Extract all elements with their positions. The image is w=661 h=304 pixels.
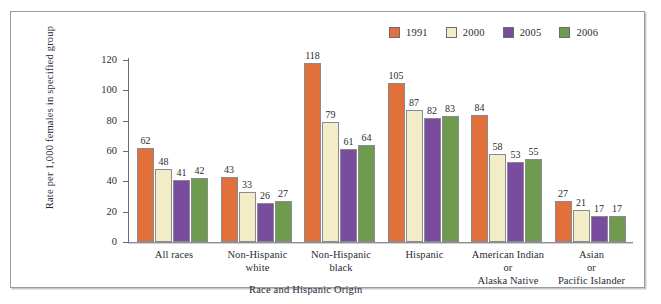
bar-2006: 42 bbox=[191, 178, 208, 242]
legend-swatch-icon bbox=[389, 27, 400, 38]
bar-2000: 87 bbox=[406, 110, 423, 242]
legend-item-2005: 2005 bbox=[503, 27, 542, 38]
x-category-label-line: Asian bbox=[533, 248, 651, 261]
legend-swatch-icon bbox=[503, 27, 514, 38]
bar-2006: 27 bbox=[275, 201, 292, 242]
chart-legend: 1991200020052006 bbox=[389, 27, 616, 38]
legend-item-2000: 2000 bbox=[446, 27, 485, 38]
bar-rect bbox=[322, 122, 339, 242]
bar-value-label: 118 bbox=[305, 51, 320, 61]
bar-group: 84585355 bbox=[471, 60, 543, 242]
bar-2000: 33 bbox=[239, 192, 256, 242]
bar-value-label: 26 bbox=[260, 191, 270, 201]
bar-2000: 48 bbox=[155, 169, 172, 242]
x-axis-title: Race and Hispanic Origin bbox=[249, 284, 363, 295]
bar-value-label: 62 bbox=[141, 136, 151, 146]
bar-2006: 83 bbox=[442, 116, 459, 242]
bar-value-label: 87 bbox=[409, 98, 419, 108]
bar-rect bbox=[257, 203, 274, 242]
bar-group: 62484142 bbox=[137, 60, 209, 242]
bar-value-label: 41 bbox=[177, 168, 187, 178]
bar-rect bbox=[489, 154, 506, 242]
bar-rect bbox=[406, 110, 423, 242]
y-tick-label: 80 bbox=[89, 116, 117, 126]
bar-value-label: 79 bbox=[326, 110, 336, 120]
x-category-label-line: black bbox=[282, 261, 400, 274]
bar-2000: 79 bbox=[322, 122, 339, 242]
bar-rect bbox=[137, 148, 154, 242]
bar-value-label: 105 bbox=[389, 71, 404, 81]
bar-rect bbox=[573, 210, 590, 242]
bar-2005: 61 bbox=[340, 149, 357, 242]
bar-rect bbox=[525, 159, 542, 242]
bar-1991: 43 bbox=[221, 177, 238, 242]
bar-2005: 41 bbox=[173, 180, 190, 242]
y-tick-label: 20 bbox=[89, 207, 117, 217]
bar-value-label: 17 bbox=[594, 204, 604, 214]
bar-value-label: 84 bbox=[475, 103, 485, 113]
bar-rect bbox=[358, 145, 375, 242]
bar-1991: 84 bbox=[471, 115, 488, 242]
bar-2005: 82 bbox=[424, 118, 441, 242]
bar-value-label: 33 bbox=[242, 180, 252, 190]
bar-2000: 21 bbox=[573, 210, 590, 242]
bar-group: 105878283 bbox=[388, 60, 460, 242]
legend-item-1991: 1991 bbox=[389, 27, 428, 38]
bar-rect bbox=[442, 116, 459, 242]
y-tick-label: 0 bbox=[89, 237, 117, 247]
bar-value-label: 43 bbox=[224, 165, 234, 175]
bar-rect bbox=[388, 83, 405, 242]
bar-value-label: 48 bbox=[159, 157, 169, 167]
bar-rect bbox=[221, 177, 238, 242]
y-tick-label: 100 bbox=[89, 85, 117, 95]
bar-value-label: 83 bbox=[445, 104, 455, 114]
y-axis-title: Rate per 1,000 females in specified grou… bbox=[44, 18, 55, 218]
bar-rect bbox=[555, 201, 572, 242]
bar-value-label: 61 bbox=[344, 137, 354, 147]
bar-rect bbox=[507, 162, 524, 242]
x-category-label-line: or bbox=[533, 261, 651, 274]
bar-value-label: 58 bbox=[493, 142, 503, 152]
bar-value-label: 27 bbox=[278, 189, 288, 199]
legend-label: 1991 bbox=[406, 27, 428, 38]
chart-frame: 1991200020052006 Rate per 1,000 females … bbox=[10, 11, 645, 288]
bar-rect bbox=[340, 149, 357, 242]
legend-swatch-icon bbox=[559, 27, 570, 38]
y-tick-mark bbox=[123, 242, 129, 243]
bar-value-label: 17 bbox=[612, 204, 622, 214]
bar-2000: 58 bbox=[489, 154, 506, 242]
bar-rect bbox=[471, 115, 488, 242]
bar-value-label: 21 bbox=[576, 198, 586, 208]
bar-rect bbox=[173, 180, 190, 242]
bar-rect bbox=[304, 63, 321, 242]
bar-2005: 17 bbox=[591, 216, 608, 242]
y-tick-label: 60 bbox=[89, 146, 117, 156]
bar-1991: 105 bbox=[388, 83, 405, 242]
bar-2006: 17 bbox=[609, 216, 626, 242]
bar-1991: 62 bbox=[137, 148, 154, 242]
bar-value-label: 82 bbox=[427, 106, 437, 116]
y-tick-label: 120 bbox=[89, 55, 117, 65]
x-axis-line bbox=[128, 242, 633, 243]
bar-rect bbox=[191, 178, 208, 242]
bar-value-label: 55 bbox=[529, 147, 539, 157]
bar-value-label: 27 bbox=[558, 189, 568, 199]
bar-2006: 64 bbox=[358, 145, 375, 242]
legend-item-2006: 2006 bbox=[559, 27, 598, 38]
x-category-label: AsianorPacific Islander bbox=[533, 248, 651, 287]
legend-label: 2006 bbox=[576, 27, 598, 38]
bar-2005: 53 bbox=[507, 162, 524, 242]
bar-2005: 26 bbox=[257, 203, 274, 242]
x-category-label-line: Pacific Islander bbox=[533, 274, 651, 287]
bar-group: 43332627 bbox=[221, 60, 293, 242]
bar-group: 118796164 bbox=[304, 60, 376, 242]
bar-rect bbox=[239, 192, 256, 242]
bar-group: 27211717 bbox=[555, 60, 627, 242]
bar-value-label: 53 bbox=[511, 150, 521, 160]
bar-rect bbox=[275, 201, 292, 242]
bar-rect bbox=[155, 169, 172, 242]
bar-rect bbox=[424, 118, 441, 242]
y-tick-label: 40 bbox=[89, 176, 117, 186]
bar-1991: 27 bbox=[555, 201, 572, 242]
bar-1991: 118 bbox=[304, 63, 321, 242]
